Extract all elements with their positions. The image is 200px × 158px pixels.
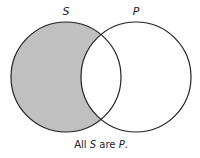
caption-prefix: All [74, 139, 90, 150]
caption-middle: are [96, 139, 119, 150]
caption-suffix: . [125, 139, 128, 150]
shaded-region-s-only [0, 0, 200, 158]
venn-diagram: S P All S are P. [0, 0, 200, 158]
label-s: S [63, 5, 70, 18]
label-p: P [133, 5, 140, 18]
caption: All S are P. [74, 139, 128, 150]
